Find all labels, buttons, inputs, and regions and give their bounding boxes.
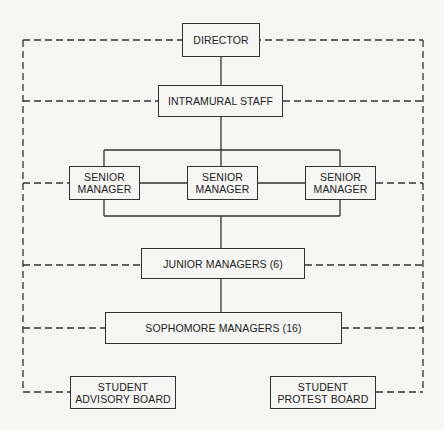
- junior-managers-node: JUNIOR MANAGERS (6): [141, 248, 305, 279]
- senior-manager-node-3: SENIOR MANAGER: [305, 166, 376, 200]
- director-node: DIRECTOR: [182, 23, 260, 57]
- advisory-board-label-line1: STUDENT: [98, 381, 148, 393]
- senior-manager-label-line1: SENIOR: [84, 171, 125, 183]
- director-label: DIRECTOR: [193, 34, 248, 46]
- sophomore-managers-label: SOPHOMORE MANAGERS (16): [145, 322, 301, 334]
- sophomore-managers-node: SOPHOMORE MANAGERS (16): [105, 312, 342, 344]
- intramural-staff-label: INTRAMURAL STAFF: [168, 95, 273, 107]
- senior-manager-node-1: SENIOR MANAGER: [69, 166, 140, 200]
- connector-lines: [0, 0, 444, 430]
- senior-manager-label-line1: SENIOR: [202, 171, 243, 183]
- junior-managers-label: JUNIOR MANAGERS (6): [163, 258, 283, 270]
- student-protest-board-node: STUDENT PROTEST BOARD: [270, 376, 376, 409]
- senior-manager-label-line2: MANAGER: [78, 183, 132, 195]
- senior-manager-node-2: SENIOR MANAGER: [187, 166, 258, 200]
- intramural-staff-node: INTRAMURAL STAFF: [158, 85, 283, 117]
- advisory-board-label-line2: ADVISORY BOARD: [75, 393, 171, 405]
- senior-manager-label-line1: SENIOR: [320, 171, 361, 183]
- senior-manager-label-line2: MANAGER: [196, 183, 250, 195]
- protest-board-label-line2: PROTEST BOARD: [278, 393, 369, 405]
- senior-manager-label-line2: MANAGER: [314, 183, 368, 195]
- protest-board-label-line1: STUDENT: [298, 381, 348, 393]
- student-advisory-board-node: STUDENT ADVISORY BOARD: [70, 376, 176, 409]
